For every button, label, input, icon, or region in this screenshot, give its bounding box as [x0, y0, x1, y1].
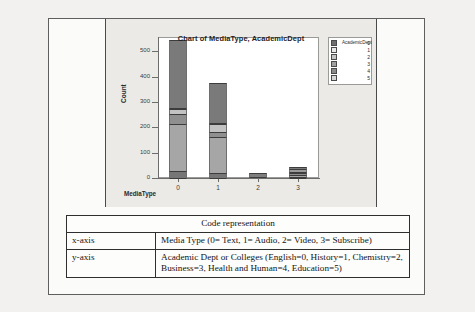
bar-segment-dept-2	[169, 114, 187, 124]
x-tick-label-3: 3	[290, 184, 306, 191]
y-tick-label-400: 400	[128, 73, 150, 79]
chart-image-panel: Chart of MediaType, AcademicDept 0 100 2…	[105, 19, 377, 207]
bar-segment-dept-3	[209, 124, 227, 132]
legend-item-5: 5	[331, 75, 371, 82]
bar-segment-dept-5	[209, 83, 227, 123]
bar-segment-dept-1	[169, 124, 187, 171]
bar-segment-dept-5	[249, 173, 267, 178]
bar-mediatype-3	[289, 167, 307, 178]
bar-segment-dept-5	[169, 40, 187, 109]
y-tick	[152, 51, 158, 52]
legend-item-4: 4	[331, 68, 371, 75]
table-row: x-axis Media Type (0= Text, 1= Audio, 2=…	[67, 232, 410, 249]
legend-swatch-icon	[331, 61, 337, 67]
chart-legend: AcademicDept 0 1 2 3 4	[328, 37, 372, 85]
y-tick	[152, 127, 158, 128]
legend-item-1: 1	[331, 47, 371, 54]
legend-swatch-icon	[331, 54, 337, 60]
row-description: Media Type (0= Text, 1= Audio, 2= Video,…	[156, 232, 410, 249]
y-tick-label-500: 500	[128, 47, 150, 53]
y-tick-label-300: 300	[128, 98, 150, 104]
x-tick-label-2: 2	[250, 184, 266, 191]
x-tick	[258, 178, 259, 182]
x-tick-label-1: 1	[210, 184, 226, 191]
y-tick	[152, 77, 158, 78]
legend-label: 1	[367, 47, 370, 53]
bar-mediatype-0	[169, 40, 187, 178]
row-axis-label: x-axis	[67, 232, 156, 249]
bar-segment-dept-0	[169, 171, 187, 179]
chart-title: Chart of MediaType, AcademicDept	[106, 34, 376, 43]
bar-mediatype-2	[249, 173, 267, 178]
legend-label: 3	[367, 61, 370, 67]
y-tick	[152, 153, 158, 154]
y-tick-label-0: 0	[128, 174, 150, 180]
table-header-row: Code representation	[67, 216, 410, 233]
y-axis-line	[158, 37, 159, 179]
x-axis-title: MediaType	[124, 190, 156, 197]
bar-segment-dept-0	[209, 173, 227, 179]
x-tick-label-0: 0	[170, 184, 186, 191]
y-tick-label-100: 100	[128, 149, 150, 155]
bar-mediatype-1	[209, 83, 227, 178]
figure-frame: Chart of MediaType, AcademicDept 0 100 2…	[48, 18, 425, 295]
bar-segment-dept-0	[289, 177, 307, 179]
legend-item-3: 3	[331, 61, 371, 68]
legend-swatch-icon	[331, 68, 337, 74]
legend-label: 4	[367, 68, 370, 74]
table-row: y-axis Academic Dept or Colleges (Englis…	[67, 249, 410, 278]
y-tick	[152, 178, 158, 179]
legend-label: 2	[367, 54, 370, 60]
table-header-cell: Code representation	[67, 216, 410, 233]
y-tick	[152, 102, 158, 103]
y-axis-title: Count	[120, 84, 127, 103]
legend-swatch-icon	[331, 47, 337, 53]
row-description: Academic Dept or Colleges (English=0, Hi…	[156, 249, 410, 278]
row-axis-label: y-axis	[67, 249, 156, 278]
legend-swatch-icon	[331, 75, 337, 81]
legend-label: 5	[367, 75, 370, 81]
y-tick-label-200: 200	[128, 123, 150, 129]
legend-item-2: 2	[331, 54, 371, 61]
code-representation-table: Code representation x-axis Media Type (0…	[66, 215, 410, 278]
bar-segment-dept-1	[209, 137, 227, 174]
